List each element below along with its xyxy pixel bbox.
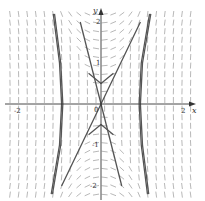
slope-segment	[102, 160, 108, 161]
slope-segment	[18, 174, 19, 180]
slope-segment	[10, 11, 11, 17]
slope-segment	[53, 20, 54, 26]
slope-segment	[85, 21, 90, 24]
slope-segment	[93, 151, 99, 152]
slope-segment	[129, 12, 133, 17]
slope-segment	[77, 193, 82, 197]
slope-segment	[164, 11, 165, 17]
slope-segment	[93, 57, 99, 58]
slope-segment	[129, 166, 132, 171]
slope-segment	[182, 183, 183, 189]
slope-segment	[27, 20, 28, 26]
x-tick-2: 2	[181, 107, 185, 115]
slope-segment	[85, 176, 90, 179]
slope-segment	[85, 159, 90, 162]
slope-segment	[110, 13, 116, 15]
slope-segment	[61, 174, 62, 180]
slope-segment	[77, 175, 81, 179]
slope-segment	[190, 37, 191, 43]
slope-segment	[69, 20, 72, 25]
slope-segment	[69, 192, 72, 197]
slope-segment	[173, 174, 174, 180]
slope-segment	[18, 11, 19, 17]
slope-segment	[173, 28, 174, 34]
slope-segment	[93, 31, 99, 32]
slope-segment	[85, 13, 90, 15]
slope-field-chart: x y -2 2 2 1 -1 -2 0	[0, 0, 205, 201]
slope-segment	[173, 183, 174, 189]
slope-segment	[182, 174, 183, 180]
x-tick-neg2: -2	[14, 107, 21, 115]
slope-segment	[182, 166, 183, 172]
slope-segment	[102, 194, 108, 195]
slope-segment	[10, 28, 11, 34]
slope-segment	[138, 11, 140, 17]
slope-segment	[165, 174, 166, 180]
slope-segment	[27, 183, 28, 189]
slope-segment	[120, 150, 124, 154]
slope-segment	[190, 11, 191, 17]
slope-segment	[18, 166, 19, 172]
slope-segment	[182, 37, 183, 43]
slope-segment	[53, 37, 54, 43]
slope-segment	[102, 177, 108, 178]
slope-segment	[165, 37, 166, 43]
slope-segment	[102, 57, 108, 58]
slope-segment	[44, 183, 45, 189]
slope-segment	[120, 38, 124, 42]
slope-segment	[93, 126, 99, 127]
slope-segment	[119, 12, 124, 16]
slope-segment	[85, 64, 90, 67]
slope-segment	[147, 11, 148, 17]
slope-segment	[93, 168, 99, 169]
slope-segment	[77, 29, 81, 33]
slope-segment	[182, 192, 183, 198]
slope-segment	[93, 194, 99, 195]
slope-segment	[164, 192, 165, 198]
slope-segment	[102, 151, 108, 152]
slope-segment	[85, 167, 90, 170]
slope-segment	[156, 11, 157, 17]
slope-segment	[110, 30, 116, 32]
slope-segment	[182, 11, 183, 17]
slope-segment	[102, 65, 108, 66]
slope-segment	[35, 192, 36, 198]
slope-segment	[156, 183, 157, 189]
slope-segment	[53, 28, 54, 34]
slope-segment	[36, 37, 37, 43]
slope-segment	[173, 192, 174, 198]
slope-segment	[53, 166, 54, 172]
slope-segment	[165, 166, 166, 172]
slope-segment	[164, 20, 165, 26]
slope-segment	[93, 160, 99, 161]
slope-segment	[173, 166, 174, 172]
slope-segment	[85, 30, 90, 33]
slope-segment	[138, 183, 140, 189]
slope-segment	[36, 166, 37, 172]
slope-segment	[139, 37, 140, 43]
y-tick-1: 1	[96, 59, 100, 67]
slope-segment	[35, 183, 36, 189]
slope-segment	[190, 183, 191, 189]
slope-segment	[173, 11, 174, 17]
slope-segment	[147, 166, 148, 172]
slope-segment	[129, 29, 132, 34]
slope-segment	[119, 193, 124, 197]
slope-segment	[18, 37, 19, 43]
slope-segment	[70, 37, 71, 43]
slope-segment	[85, 150, 90, 153]
slope-segment	[61, 28, 62, 34]
slope-segment	[102, 48, 108, 49]
slope-segment	[110, 194, 116, 196]
slope-segment	[77, 46, 81, 50]
slope-segment	[36, 174, 37, 180]
slope-segment	[164, 183, 165, 189]
slope-segment	[36, 28, 37, 34]
slope-segment	[190, 28, 191, 34]
slope-segment	[190, 192, 191, 198]
slope-segment	[120, 29, 125, 33]
slope-segment	[77, 12, 82, 16]
slope-segment	[77, 167, 81, 171]
slope-segment	[102, 31, 108, 32]
slope-segment	[102, 22, 108, 23]
